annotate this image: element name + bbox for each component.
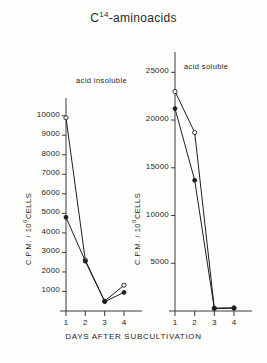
- y-tick-label: 4000: [16, 227, 60, 236]
- y-tick-label: 10000: [16, 110, 60, 119]
- figure-canvas: C14-aminoacids acid insoluble C.P.M. / 1…: [0, 0, 267, 363]
- y-tick-label: 7000: [16, 168, 60, 177]
- x-tick-label: 4: [228, 318, 240, 327]
- y-tick-label: 15000: [125, 162, 169, 171]
- y-tick-label: 9000: [16, 129, 60, 138]
- y-tick-label: 25000: [125, 66, 169, 75]
- y-tick-label: 8000: [16, 149, 60, 158]
- plot-graphics: [0, 0, 267, 363]
- x-tick-label: 3: [99, 318, 111, 327]
- y-tick-label: 20000: [125, 114, 169, 123]
- y-tick-label: 10000: [125, 210, 169, 219]
- y-tick-label: 2000: [16, 266, 60, 275]
- y-tick-label: 6000: [16, 188, 60, 197]
- x-tick-label: 2: [189, 318, 201, 327]
- x-tick-label: 2: [79, 318, 91, 327]
- x-tick-label: 1: [60, 318, 72, 327]
- x-tick-label: 4: [118, 318, 130, 327]
- y-tick-label: 3000: [16, 246, 60, 255]
- y-tick-label: 5000: [16, 207, 60, 216]
- x-tick-label: 3: [208, 318, 220, 327]
- y-tick-label: 1000: [16, 285, 60, 294]
- x-tick-label: 1: [169, 318, 181, 327]
- y-tick-label: 5000: [125, 257, 169, 266]
